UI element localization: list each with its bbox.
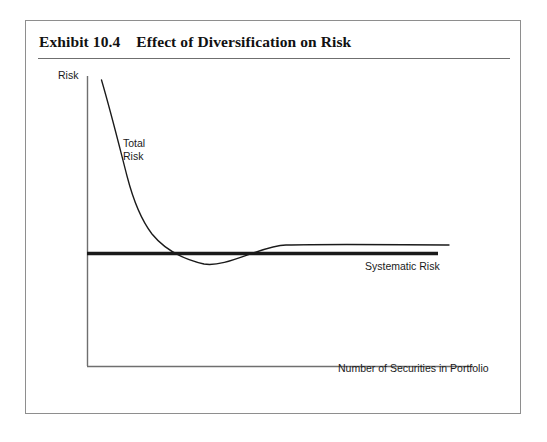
annotation-total-risk-line2: Risk <box>123 150 143 162</box>
exhibit-frame: Exhibit 10.4 Effect of Diversification o… <box>25 20 521 414</box>
annotation-total-risk: TotalRisk <box>123 137 145 163</box>
x-axis-label: Number of Securities in Portfolio <box>338 362 489 375</box>
total-risk-curve <box>102 80 450 264</box>
risk-diversification-chart <box>26 21 522 415</box>
chart-plot-area: Risk TotalRisk Systematic Risk Number of… <box>26 21 522 415</box>
annotation-systematic-risk: Systematic Risk <box>365 260 440 273</box>
y-axis-label: Risk <box>58 69 78 82</box>
annotation-total-risk-line1: Total <box>123 137 145 149</box>
